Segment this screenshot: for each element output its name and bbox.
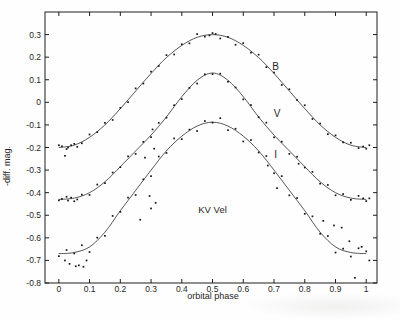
data-point — [242, 141, 244, 143]
data-point — [150, 175, 152, 177]
data-point — [319, 233, 321, 235]
data-point — [189, 43, 191, 45]
data-point — [153, 148, 155, 150]
data-point — [150, 208, 152, 210]
data-point — [335, 252, 337, 254]
data-point — [66, 148, 68, 150]
x-tick-label: 0.7 — [268, 284, 280, 294]
data-point — [135, 153, 137, 155]
data-point — [322, 220, 324, 222]
data-point — [58, 144, 60, 146]
data-point — [369, 144, 371, 146]
data-point — [365, 200, 367, 202]
data-point — [104, 235, 106, 237]
data-point — [362, 146, 364, 148]
data-point — [120, 107, 122, 109]
data-point — [215, 33, 217, 35]
data-point — [70, 144, 72, 146]
data-point — [89, 194, 91, 196]
tick-labels: 00.10.20.30.40.50.60.70.80.910.30.20.10-… — [26, 30, 369, 294]
data-point — [181, 138, 183, 140]
data-point — [350, 142, 352, 144]
data-point — [358, 247, 360, 249]
data-point — [152, 129, 154, 131]
data-point — [319, 183, 321, 185]
data-point — [212, 122, 214, 124]
data-point — [250, 139, 252, 141]
x-tick-label: 0.6 — [237, 284, 249, 294]
series-label-B: B — [272, 61, 279, 72]
data-point — [361, 246, 363, 248]
series-points-I — [58, 117, 370, 278]
series-label-V: V — [274, 108, 281, 119]
data-point — [112, 119, 114, 121]
data-point — [127, 156, 129, 158]
data-point — [135, 88, 137, 90]
data-point — [350, 199, 352, 201]
data-point — [276, 187, 278, 189]
data-point — [281, 84, 283, 86]
y-tick-label: -0.5 — [26, 210, 41, 220]
data-point — [196, 130, 198, 132]
data-point — [143, 141, 145, 143]
data-point — [66, 249, 68, 251]
data-point — [120, 211, 122, 213]
y-tick-label: 0.2 — [29, 52, 41, 62]
data-point — [112, 172, 114, 174]
series-points-B — [58, 32, 370, 157]
y-tick-label: -0.8 — [26, 278, 41, 288]
data-point — [289, 195, 291, 197]
data-point — [341, 227, 343, 229]
data-point — [181, 43, 183, 45]
data-point — [235, 128, 237, 130]
data-point — [181, 98, 183, 100]
data-point — [296, 156, 298, 158]
data-point — [212, 32, 214, 34]
data-point — [204, 120, 206, 122]
data-point — [96, 184, 98, 186]
data-point — [327, 184, 329, 186]
data-point — [196, 33, 198, 35]
data-point — [342, 142, 344, 144]
data-point — [312, 171, 314, 173]
scanned-figure-page: 00.10.20.30.40.50.60.70.80.910.30.20.10-… — [0, 0, 400, 320]
data-point — [144, 157, 146, 159]
data-point — [73, 143, 75, 145]
data-point — [69, 263, 71, 265]
data-point — [166, 54, 168, 56]
data-point — [369, 260, 371, 262]
data-point — [70, 197, 72, 199]
data-point — [173, 104, 175, 106]
data-point — [58, 200, 60, 202]
data-point — [189, 129, 191, 131]
data-point — [312, 118, 314, 120]
data-point — [149, 195, 151, 197]
data-point — [155, 202, 157, 204]
data-point — [139, 219, 141, 221]
data-point — [267, 165, 269, 167]
data-point — [83, 266, 85, 268]
data-point — [258, 54, 260, 56]
data-point — [75, 265, 77, 267]
data-point — [64, 155, 66, 157]
series-points-V — [58, 73, 370, 202]
data-point — [333, 225, 335, 227]
data-point — [266, 66, 268, 68]
data-point — [127, 197, 129, 199]
data-point — [96, 237, 98, 239]
data-points — [58, 32, 370, 279]
data-point — [143, 83, 145, 85]
x-tick-label: 0 — [56, 284, 61, 294]
data-point — [112, 215, 114, 217]
x-tick-label: 0.9 — [330, 284, 342, 294]
data-point — [143, 179, 145, 181]
data-point — [67, 147, 69, 149]
fitted-curve-B — [59, 35, 366, 148]
y-tick-label: -0.4 — [26, 188, 41, 198]
data-point — [304, 213, 306, 215]
data-point — [358, 195, 360, 197]
data-point — [319, 123, 321, 125]
data-point — [365, 148, 367, 150]
data-point — [173, 138, 175, 140]
plot-svg: 00.10.20.30.40.50.60.70.80.910.30.20.10-… — [0, 0, 400, 320]
